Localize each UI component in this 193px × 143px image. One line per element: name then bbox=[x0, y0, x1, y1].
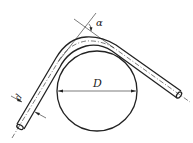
diameter-label: D bbox=[93, 78, 102, 89]
pipe-bending-diagram: D α d bbox=[0, 0, 193, 143]
arrow-pipe-2 bbox=[35, 112, 40, 116]
angle-label: α bbox=[96, 18, 103, 28]
arrow-d-right bbox=[131, 90, 136, 93]
arrow-d-left bbox=[58, 90, 63, 93]
